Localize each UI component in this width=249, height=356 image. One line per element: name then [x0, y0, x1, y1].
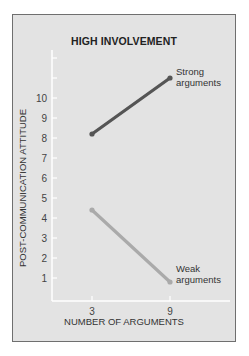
strong-arguments-label: Strong arguments — [176, 66, 221, 88]
y-tick-label: 7 — [41, 153, 47, 164]
y-tick-label: 9 — [41, 113, 47, 124]
weak-arguments-label: Weak arguments — [176, 263, 221, 285]
weak-label-line1: Weak — [176, 263, 221, 274]
weak-label-line2: arguments — [176, 274, 221, 285]
plot-area: 1234567891039 — [0, 0, 249, 356]
y-axis-label: POST-COMMUNICATION ATTITUDE — [17, 109, 28, 267]
y-tick-label: 4 — [41, 213, 47, 224]
y-tick-label: 2 — [41, 253, 47, 264]
weak-arguments-line — [92, 210, 170, 282]
x-axis-label: NUMBER OF ARGUMENTS — [12, 316, 236, 327]
strong-label-line1: Strong — [176, 66, 221, 77]
data-point — [167, 75, 172, 80]
y-tick-label: 5 — [41, 193, 47, 204]
data-point — [167, 279, 172, 284]
y-tick-label: 10 — [36, 93, 48, 104]
strong-arguments-line — [92, 78, 170, 134]
data-point — [89, 131, 94, 136]
y-tick-label: 3 — [41, 233, 47, 244]
strong-label-line2: arguments — [176, 77, 221, 88]
y-tick-label: 6 — [41, 173, 47, 184]
y-tick-label: 8 — [41, 133, 47, 144]
data-point — [89, 207, 94, 212]
y-tick-label: 1 — [41, 273, 47, 284]
